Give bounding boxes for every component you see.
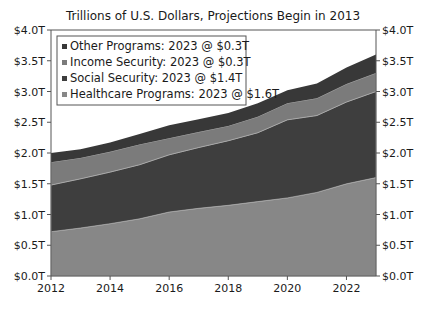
y-tick-label-right: $0.5T [382, 239, 413, 252]
y-tick-label-left: $3.0T [14, 86, 45, 99]
y-tick-label-left: $4.0T [14, 24, 45, 37]
legend: Other Programs: 2023 @ $0.3TIncome Secur… [57, 36, 280, 105]
x-tick-label: 2012 [37, 282, 65, 295]
y-tick-label-right: $1.5T [382, 178, 413, 191]
x-tick-label: 2022 [332, 282, 360, 295]
y-tick-label-left: $0.5T [14, 239, 45, 252]
stacked-area-chart: Trillions of U.S. Dollars, Projections B… [0, 0, 424, 310]
y-tick-label-left: $1.0T [14, 209, 45, 222]
x-tick-label: 2018 [214, 282, 242, 295]
chart-title: Trillions of U.S. Dollars, Projections B… [65, 9, 360, 23]
y-tick-label-left: $3.5T [14, 55, 45, 68]
legend-swatch-icon [62, 76, 67, 81]
y-tick-label-right: $2.5T [382, 116, 413, 129]
x-tick-label: 2016 [155, 282, 183, 295]
x-tick-label: 2014 [96, 282, 124, 295]
y-tick-label-right: $1.0T [382, 209, 413, 222]
legend-item: Healthcare Programs: 2023 @ $1.6T [70, 87, 280, 101]
y-tick-label-right: $0.0T [382, 270, 413, 283]
y-tick-label-left: $2.0T [14, 147, 45, 160]
y-tick-label-left: $2.5T [14, 116, 45, 129]
legend-swatch-icon [62, 92, 67, 97]
legend-swatch-icon [62, 44, 67, 49]
y-tick-label-right: $4.0T [382, 24, 413, 37]
y-tick-label-right: $2.0T [382, 147, 413, 160]
legend-item: Social Security: 2023 @ $1.4T [70, 71, 243, 85]
legend-item: Other Programs: 2023 @ $0.3T [70, 39, 250, 53]
legend-item: Income Security: 2023 @ $0.3T [70, 55, 252, 69]
y-tick-label-right: $3.0T [382, 86, 413, 99]
y-tick-label-right: $3.5T [382, 55, 413, 68]
legend-swatch-icon [62, 60, 67, 65]
x-tick-label: 2020 [273, 282, 301, 295]
y-tick-label-left: $1.5T [14, 178, 45, 191]
